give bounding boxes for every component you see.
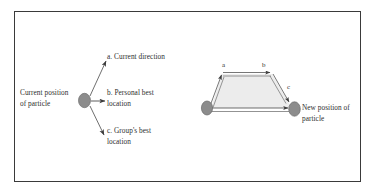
label-current-position: Current position of particle (20, 88, 82, 109)
label-vector-a: a (222, 61, 225, 69)
label-vector-c: c (287, 83, 290, 91)
label-branch-current-direction: a. Current direction (107, 52, 183, 63)
figure-canvas: Current position of particle a. Current … (0, 0, 374, 194)
label-branch-group-best: c. Group's best location (107, 126, 175, 147)
particle-start-position (201, 101, 212, 115)
arrow-current-direction (90, 61, 106, 96)
left-fan-arrows (90, 61, 106, 135)
label-branch-personal-best: b. Personal best location (107, 88, 175, 109)
label-vector-b: b (262, 61, 266, 69)
arrow-group-best (90, 106, 104, 135)
label-new-position: New position of particle (302, 103, 364, 124)
particle-new-position (289, 102, 301, 116)
